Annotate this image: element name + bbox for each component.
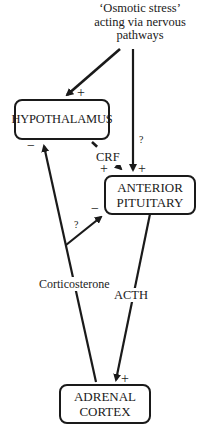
arrow-corticosterone-to-pituitary (66, 217, 101, 245)
label-line: ‘Osmotic stress’ (80, 2, 200, 16)
hpa-axis-diagram: ‘Osmotic stress’ acting via nervous path… (0, 0, 205, 433)
node-label: ADRENAL (74, 389, 136, 404)
sign-question-stress-pituitary: ? (139, 135, 143, 145)
node-anterior-pituitary: ANTERIOR PITUITARY (104, 175, 196, 215)
sign-plus-stress-pituitary: + (138, 162, 146, 176)
node-label: CORTEX (74, 404, 136, 419)
osmotic-stress-label: ‘Osmotic stress’ acting via nervous path… (80, 2, 200, 43)
node-label: HYPOTHALAMUS (11, 112, 112, 127)
node-label: PITUITARY (117, 195, 184, 210)
connector-arrows (0, 0, 205, 433)
sign-minus-cort-pituitary: − (91, 202, 99, 216)
sign-plus-stress-hypothalamus: + (77, 86, 85, 100)
sign-plus-crf: + (100, 162, 108, 176)
sign-question-cort-pituitary: ? (74, 220, 78, 230)
edge-label-acth: ACTH (114, 288, 148, 303)
node-adrenal-cortex: ADRENAL CORTEX (59, 384, 151, 424)
node-hypothalamus: HYPOTHALAMUS (14, 99, 110, 140)
arrow-corticosterone-to-hypothalamus (44, 146, 96, 382)
arrow-stress-to-hypothalamus (67, 49, 120, 95)
sign-plus-acth-adrenal: + (121, 372, 129, 386)
edge-label-corticosterone: Corticosterone (39, 277, 110, 292)
label-line: acting via nervous (80, 16, 200, 30)
label-line: pathways (80, 29, 200, 43)
sign-minus-cort-hypothalamus: − (27, 139, 35, 153)
node-label: ANTERIOR (117, 180, 184, 195)
